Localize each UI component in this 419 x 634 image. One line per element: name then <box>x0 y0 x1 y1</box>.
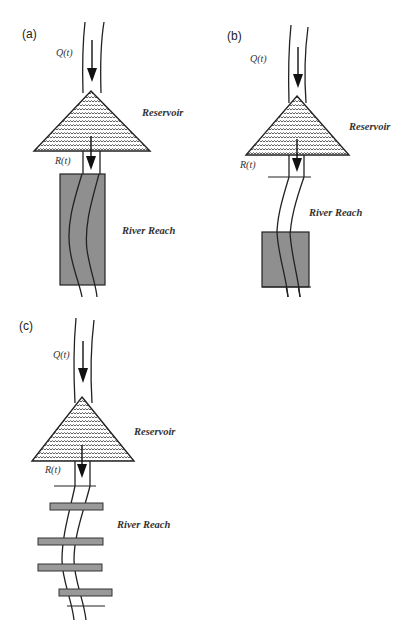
reservoir-river-diagram: (a) Q(t) Reservoir R(t) River Reach (b) <box>0 0 419 634</box>
inflow-label: Q(t) <box>53 349 70 361</box>
river-reach-segment-1 <box>50 503 103 510</box>
panel-a-label: (a) <box>22 27 37 41</box>
inflow-channel-right-bank <box>101 22 104 93</box>
inflow-channel-right-bank <box>91 320 94 403</box>
inflow-channel-left-bank <box>83 22 85 93</box>
release-label: R(t) <box>44 464 61 476</box>
inflow-arrow-icon <box>293 47 303 88</box>
release-label: R(t) <box>54 155 71 167</box>
river-reach-segment-3 <box>38 564 102 571</box>
release-label: R(t) <box>239 159 256 171</box>
panel-c: (c) Q(t) Reservoir R(t) River Reach <box>19 318 176 620</box>
inflow-label: Q(t) <box>56 47 73 59</box>
river-reach-segment-4 <box>59 589 112 596</box>
inflow-label: Q(t) <box>250 53 267 65</box>
reservoir-triangle <box>32 397 134 461</box>
inflow-channel-left-bank <box>74 318 76 403</box>
river-reach-segment-2 <box>38 538 103 545</box>
reservoir-label: Reservoir <box>348 121 391 132</box>
reservoir-triangle <box>34 91 150 151</box>
inflow-channel-right-bank <box>305 27 308 103</box>
panel-b: (b) Q(t) Reservoir R(t) River Reach <box>227 25 391 297</box>
reservoir-label: Reservoir <box>141 107 184 118</box>
panel-c-label: (c) <box>19 319 33 333</box>
reservoir-label: Reservoir <box>133 426 176 437</box>
river-reach-label: River Reach <box>308 207 363 218</box>
river-reach-label: River Reach <box>116 519 171 530</box>
inflow-arrow-icon <box>87 40 97 82</box>
river-reach-block <box>60 174 105 285</box>
inflow-arrow-icon <box>78 341 88 383</box>
river-reach-label: River Reach <box>121 225 176 236</box>
inflow-channel-left-bank <box>289 25 291 103</box>
panel-b-label: (b) <box>227 29 242 43</box>
panel-a: (a) Q(t) Reservoir R(t) River Reach <box>22 22 184 297</box>
